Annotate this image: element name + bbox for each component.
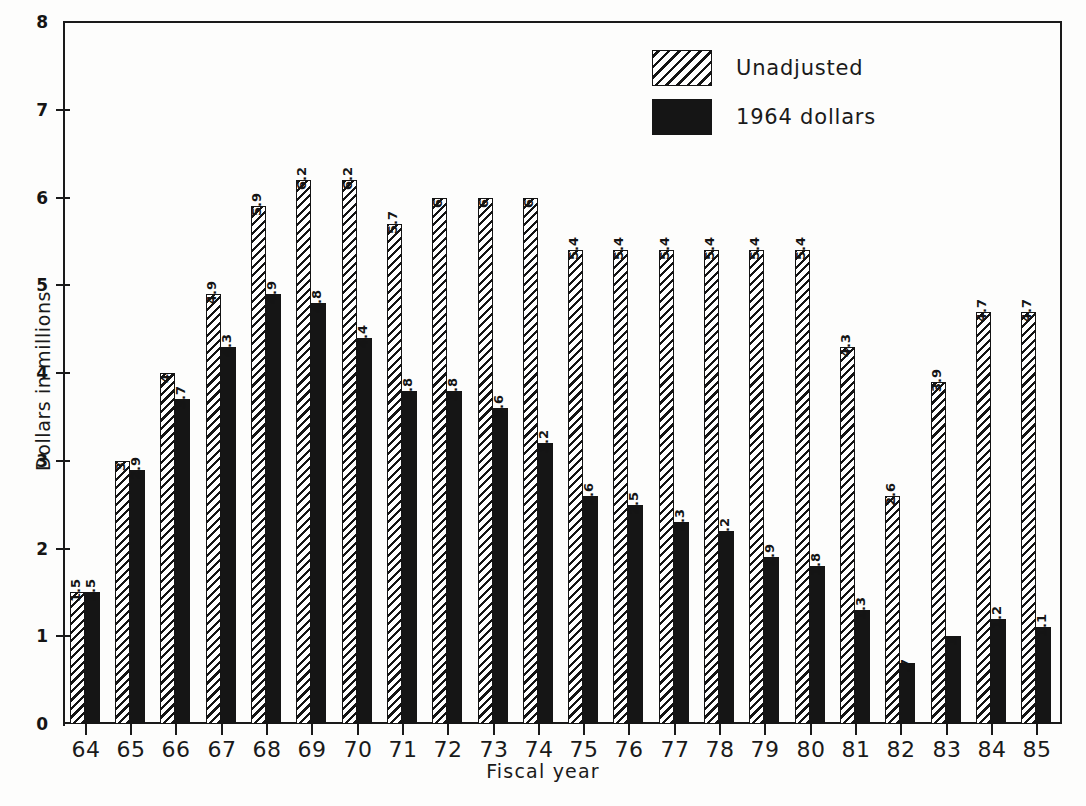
x-axis-tick-label: 82 [879, 737, 923, 762]
y-axis-tick-label: 1 [8, 626, 48, 646]
x-axis-tick [1036, 724, 1038, 735]
bar-1964-dollars [402, 391, 417, 724]
x-axis-tick-label: 64 [64, 737, 108, 762]
bar-value-label: 2.3 [672, 509, 687, 532]
x-axis-tick-label: 65 [109, 737, 153, 762]
bar-value-label: 5.4 [702, 237, 717, 260]
bar-unadjusted [976, 312, 991, 724]
bar-1964-dollars [583, 496, 598, 724]
y-axis-tick [56, 372, 70, 374]
bar-value-label: 1.1 [1034, 614, 1049, 637]
bar-1964-dollars [628, 505, 643, 724]
x-axis-tick-label: 74 [517, 737, 561, 762]
x-axis-tick-label: 80 [789, 737, 833, 762]
y-axis-tick-label: 8 [8, 12, 48, 32]
bar-unadjusted [70, 592, 85, 724]
bar-value-label: 4 [158, 374, 173, 383]
bar-value-label: 2.2 [717, 518, 732, 541]
x-axis-tick-label: 83 [925, 737, 969, 762]
bar-unadjusted [840, 347, 855, 724]
bar-value-label: 1.2 [989, 606, 1004, 629]
x-axis-tick [946, 724, 948, 735]
x-axis-tick [493, 724, 495, 735]
x-axis-tick [764, 724, 766, 735]
bar-1964-dollars [493, 408, 508, 724]
x-axis-tick [85, 724, 87, 735]
legend-item-label: Unadjusted [736, 56, 863, 80]
x-axis-tick-label: 76 [607, 737, 651, 762]
bar-unadjusted [478, 198, 493, 725]
bar-unadjusted [885, 496, 900, 724]
bar-unadjusted [432, 198, 447, 725]
bar-value-label: 2.9 [128, 456, 143, 479]
y-axis-tick-label: 3 [8, 451, 48, 471]
x-axis-tick-label: 75 [562, 737, 606, 762]
bar-unadjusted [613, 250, 628, 724]
bar-value-label: 4.4 [355, 325, 370, 348]
y-axis-tick [56, 635, 70, 637]
bar-1964-dollars [764, 557, 779, 724]
x-axis-tick [447, 724, 449, 735]
x-axis-tick-label: 79 [743, 737, 787, 762]
bar-value-label: 1.5 [83, 579, 98, 602]
bar-value-label: 3 [113, 462, 128, 471]
bar-1964-dollars [357, 338, 372, 724]
bar-value-label: 6.2 [340, 167, 355, 190]
bar-value-label: 4.3 [219, 334, 234, 357]
bar-value-label: 4.9 [264, 281, 279, 304]
x-axis-tick [175, 724, 177, 735]
bar-value-label: 1 [944, 637, 959, 646]
bar-value-label: .7 [898, 659, 913, 673]
bar-unadjusted [659, 250, 674, 724]
bar-value-label: 5.4 [566, 237, 581, 260]
bar-value-label: 2.6 [883, 483, 898, 506]
y-axis-tick-label: 7 [8, 100, 48, 120]
legend-swatch-icon [652, 50, 712, 86]
bar-unadjusted [749, 250, 764, 724]
x-axis-tick [266, 724, 268, 735]
bar-value-label: 4.7 [974, 299, 989, 322]
bar-value-label: 1.9 [762, 544, 777, 567]
x-axis-tick-label: 66 [154, 737, 198, 762]
y-axis-tick [56, 197, 70, 199]
bar-value-label: 5.7 [385, 211, 400, 234]
x-axis-tick [130, 724, 132, 735]
bar-value-label: 6 [476, 198, 491, 207]
bar-1964-dollars [85, 592, 100, 724]
x-axis-tick-label: 70 [336, 737, 380, 762]
x-axis-tick-label: 85 [1015, 737, 1059, 762]
bar-value-label: 1.8 [808, 553, 823, 576]
y-axis-tick-label: 2 [8, 539, 48, 559]
bar-unadjusted [296, 180, 311, 724]
x-axis-tick [628, 724, 630, 735]
bar-value-label: 4.9 [204, 281, 219, 304]
bar-1964-dollars [130, 470, 145, 724]
bar-value-label: 4.7 [1019, 299, 1034, 322]
y-axis-tick-label: 4 [8, 363, 48, 383]
x-axis-tick [855, 724, 857, 735]
x-axis-tick-label: 84 [970, 737, 1014, 762]
x-axis-tick [357, 724, 359, 735]
bar-value-label: 5.9 [249, 193, 264, 216]
x-axis-tick [674, 724, 676, 735]
x-axis-tick [221, 724, 223, 735]
x-axis-tick-label: 77 [653, 737, 697, 762]
bar-unadjusted [704, 250, 719, 724]
bar-value-label: 3.7 [173, 386, 188, 409]
x-axis-tick [311, 724, 313, 735]
bar-unadjusted [523, 198, 538, 725]
bar-1964-dollars [175, 399, 190, 724]
bar-1964-dollars [946, 636, 961, 724]
x-axis-tick [719, 724, 721, 735]
x-axis-tick [810, 724, 812, 735]
y-axis-tick [56, 284, 70, 286]
x-axis-title: Fiscal year [0, 760, 1086, 782]
bar-unadjusted [206, 294, 221, 724]
bar-value-label: 3.8 [445, 378, 460, 401]
bar-1964-dollars [447, 391, 462, 724]
bar-unadjusted [160, 373, 175, 724]
bar-value-label: 6.2 [294, 167, 309, 190]
bar-unadjusted [387, 224, 402, 724]
bar-1964-dollars [266, 294, 281, 724]
bar-value-label: 2.5 [626, 492, 641, 515]
